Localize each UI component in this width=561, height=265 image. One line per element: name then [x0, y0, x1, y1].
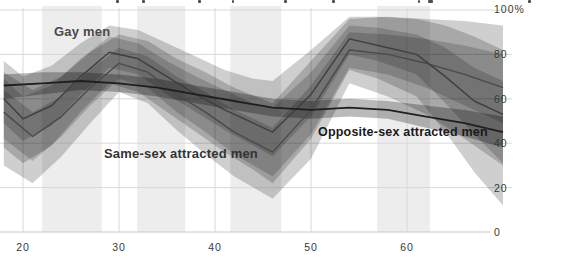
- y-axis-tick-80: 80: [494, 48, 538, 60]
- cropped-caption-fragment: [232, 0, 234, 3]
- y-axis-tick-40: 40: [494, 137, 538, 149]
- chart-container: Gay men Same-sex attracted men Opposite-…: [0, 0, 561, 265]
- y-axis-tick-100: 100%: [494, 3, 538, 15]
- cropped-caption-fragment: [428, 0, 433, 3]
- x-axis-tick-40: 40: [199, 241, 231, 253]
- x-axis-tick-20: 20: [7, 241, 39, 253]
- cropped-caption-fragment: [116, 0, 119, 3]
- series-label-same-sex-men: Same-sex attracted men: [104, 146, 258, 161]
- y-axis-tick-20: 20: [494, 182, 538, 194]
- x-axis-tick-30: 30: [103, 241, 135, 253]
- y-axis-tick-0: 0: [494, 226, 538, 238]
- cropped-caption-fragment: [198, 0, 201, 3]
- cropped-caption-fragment: [142, 0, 145, 3]
- series-label-gay-men: Gay men: [54, 24, 110, 39]
- x-axis-tick-60: 60: [391, 241, 423, 253]
- cropped-caption-fragment: [418, 0, 420, 3]
- cropped-caption-fragment: [332, 0, 335, 3]
- cropped-caption-fragment: [528, 0, 531, 3]
- series-label-opposite-sex-men: Opposite-sex attracted men: [318, 125, 488, 139]
- y-axis-tick-60: 60: [494, 93, 538, 105]
- cropped-caption-fragment: [284, 0, 287, 3]
- x-axis-tick-50: 50: [295, 241, 327, 253]
